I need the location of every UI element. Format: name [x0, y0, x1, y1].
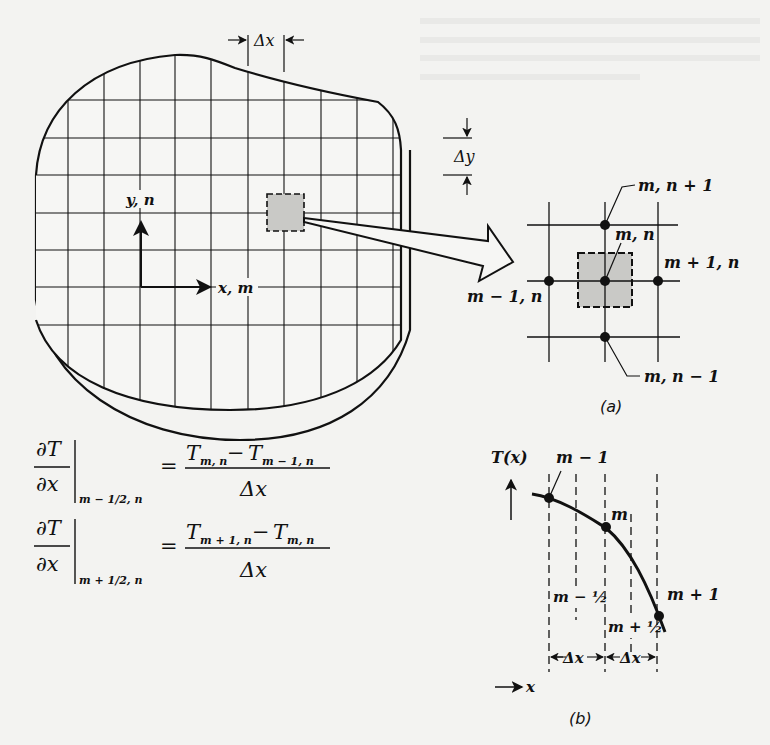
svg-text:=: = [160, 454, 178, 478]
node-stencil: m, n + 1 m, n m + 1, n m − 1, n m, n − 1 [467, 176, 739, 386]
node-left [544, 276, 554, 286]
background-text-bleed [420, 18, 760, 80]
svg-text:−: − [227, 441, 245, 465]
label-m-plus-half: m + ½ [608, 618, 663, 636]
caption-b: (b) [569, 709, 592, 728]
svg-text:m + 1, n: m + 1, n [200, 534, 252, 547]
label-m: m [611, 505, 628, 524]
svg-text:∂x: ∂x [36, 472, 59, 496]
caption-a: (a) [600, 397, 622, 416]
label-m-minus-half: m − ½ [553, 588, 608, 606]
part-b-diagram: T(x) m − 1 m m + 1 m − ½ m + ½ Δx Δx [491, 448, 720, 728]
label-m-minus-1: m − 1 [556, 448, 609, 467]
svg-text:m, n: m, n [287, 534, 314, 547]
dx-label: Δx [253, 31, 275, 50]
t-of-x-label: T(x) [491, 448, 528, 467]
svg-text:∂T: ∂T [36, 437, 63, 461]
svg-text:Δx: Δx [239, 558, 267, 582]
node-right [653, 276, 663, 286]
svg-text:∂T: ∂T [36, 516, 63, 540]
node-label-right: m + 1, n [664, 253, 739, 272]
dx-right-label: Δx [619, 649, 642, 667]
temperature-curve [532, 494, 665, 632]
equation-1: ∂T ∂x m − 1/2, n = T m, n − T m − 1, n Δ… [34, 437, 330, 506]
svg-text:m − 1/2, n: m − 1/2, n [79, 493, 143, 506]
label-m-plus-1: m + 1 [667, 585, 720, 604]
x-label-b: x [525, 678, 536, 696]
equation-2: ∂T ∂x m + 1/2, n = T m + 1, n − T m, n Δ… [34, 516, 330, 587]
svg-text:Δx: Δx [239, 477, 267, 501]
node-label-center: m, n [615, 225, 655, 244]
node-label-bottom: m, n − 1 [644, 367, 719, 386]
shaded-control-volume-small [267, 194, 304, 231]
node-label-left: m − 1, n [467, 287, 542, 306]
dy-dimension: Δy [443, 118, 476, 195]
svg-text:m + 1/2, n: m + 1/2, n [79, 574, 143, 587]
x-axis-label: x, m [217, 279, 253, 297]
svg-text:−: − [252, 520, 270, 544]
dx-dimension: Δx [228, 31, 304, 72]
dx-left-label: Δx [562, 649, 585, 667]
svg-text:∂x: ∂x [36, 552, 59, 576]
svg-text:=: = [160, 534, 178, 558]
y-axis-label: y, n [125, 191, 155, 209]
svg-text:m − 1, n: m − 1, n [262, 455, 314, 468]
dy-label: Δy [453, 147, 476, 166]
svg-text:m, n: m, n [200, 455, 227, 468]
point-m [601, 522, 611, 532]
figure-canvas: y, n x, m Δx Δy [0, 0, 770, 745]
node-label-top: m, n + 1 [638, 176, 713, 195]
part-a-diagram: y, n x, m Δx Δy [0, 0, 739, 450]
